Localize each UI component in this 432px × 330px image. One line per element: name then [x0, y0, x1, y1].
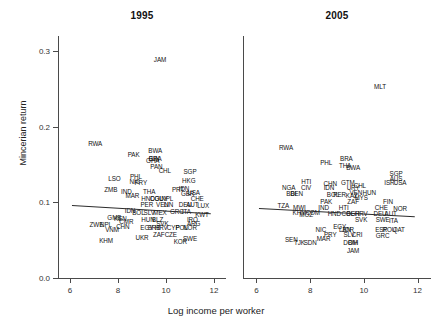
- data-point-label: MOZ: [299, 212, 313, 218]
- x-tick-label: 12: [410, 286, 426, 295]
- data-point-label: MAR: [317, 236, 331, 242]
- data-point-label: CRI: [352, 232, 363, 238]
- x-tick-label: 6: [62, 286, 78, 295]
- data-point-label: LIN: [164, 201, 174, 207]
- data-point-label: BWA: [148, 148, 162, 154]
- x-axis-label: Log income per worker: [0, 305, 432, 316]
- x-tick-mark: [364, 278, 365, 283]
- data-point-label: SVK: [355, 217, 367, 223]
- data-point-label: KHM: [99, 238, 113, 244]
- data-point-label: SWE: [183, 236, 197, 242]
- data-point-label: ZAF: [347, 198, 359, 204]
- data-point-label: PHL: [320, 160, 332, 166]
- x-tick-label: 10: [158, 286, 174, 295]
- x-tick-label: 12: [206, 286, 222, 295]
- scatter-panel-1995: JAMRWAPAKBWAGINBRAGHAPANCHLSGPLSOPHLNICP…: [58, 36, 226, 278]
- figure-container: 1995 2005 0.00.10.20.3 681012681012 Minc…: [0, 0, 432, 330]
- data-point-label: SWE: [376, 217, 390, 223]
- y-tick-mark: [53, 278, 58, 279]
- data-point-label: ITA: [389, 217, 398, 223]
- x-tick-label: 6: [248, 286, 264, 295]
- data-point-label: BIH: [348, 240, 358, 246]
- data-point-label: BEN: [290, 191, 303, 197]
- x-tick-mark: [418, 278, 419, 283]
- data-point-label: GRC: [376, 233, 390, 239]
- data-point-label: CHL: [159, 167, 171, 173]
- x-tick-mark: [70, 278, 71, 283]
- data-point-label: SDN: [304, 240, 317, 246]
- panel-title-2005: 2005: [243, 10, 431, 21]
- data-point-label: USA: [394, 180, 407, 186]
- data-point-label: JAM: [347, 248, 359, 254]
- data-point-label: LSO: [108, 176, 120, 182]
- x-tick-label: 8: [302, 286, 318, 295]
- panel-title-1995: 1995: [58, 10, 226, 21]
- y-axis-label: Mincerian return: [18, 58, 28, 208]
- data-point-label: SGP: [184, 169, 197, 175]
- data-point-label: ZMB: [104, 187, 117, 193]
- y-tick-label: 0.3: [24, 47, 50, 56]
- data-point-label: NOR: [183, 225, 197, 231]
- data-point-label: UKR: [136, 235, 149, 241]
- data-point-label: MAR: [126, 193, 140, 199]
- data-point-label: BWA: [346, 164, 360, 170]
- data-point-label: PER: [140, 202, 153, 208]
- data-point-label: PRY: [135, 180, 148, 186]
- y-tick-label: 0.0: [24, 274, 50, 283]
- data-point-label: LUX: [197, 203, 209, 209]
- data-point-label: CZE: [165, 232, 177, 238]
- data-point-label: THA: [143, 189, 155, 195]
- data-point-label: MLT: [374, 84, 386, 90]
- data-point-label: PER: [333, 192, 346, 198]
- x-tick-label: 10: [356, 286, 372, 295]
- x-tick-label: 8: [110, 286, 126, 295]
- scatter-panel-2005: MLTRWAPHLBRATHABWASGPAUSHTICHNGTMISRUSAN…: [243, 36, 431, 278]
- x-axis-line-right: [243, 278, 431, 279]
- data-point-label: ZAF: [153, 232, 165, 238]
- x-axis-line-left: [58, 278, 226, 279]
- data-point-label: VNM: [105, 226, 119, 232]
- data-point-label: QAT: [393, 227, 405, 233]
- data-point-label: RWA: [88, 141, 102, 147]
- data-point-label: JAM: [154, 57, 166, 63]
- x-tick-mark: [310, 278, 311, 283]
- data-point-label: PAK: [128, 152, 140, 158]
- data-point-label: HKG: [182, 178, 195, 184]
- x-tick-mark: [256, 278, 257, 283]
- x-tick-mark: [214, 278, 215, 283]
- data-point-label: RWA: [279, 145, 293, 151]
- x-tick-mark: [118, 278, 119, 283]
- x-tick-mark: [166, 278, 167, 283]
